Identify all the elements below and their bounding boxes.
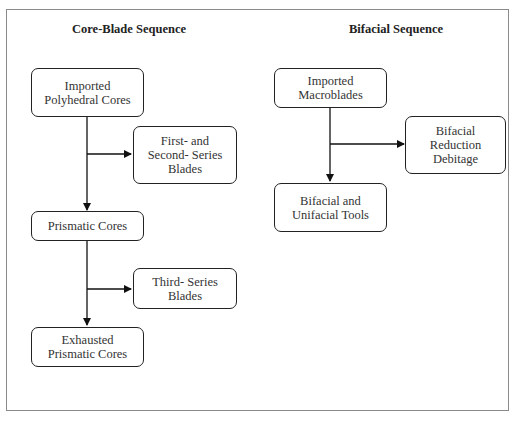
node-imported-polyhedral-cores: Imported Polyhedral Cores bbox=[31, 68, 144, 117]
node-first-second-series-blades: First- and Second- Series Blades bbox=[133, 126, 237, 184]
node-bifacial-reduction-debitage: Bifacial Reduction Debitage bbox=[405, 116, 506, 174]
node-bifacial-unifacial-tools: Bifacial and Unifacial Tools bbox=[274, 183, 387, 232]
node-prismatic-cores: Prismatic Cores bbox=[31, 211, 144, 241]
node-imported-macroblades: Imported Macroblades bbox=[274, 68, 387, 108]
node-third-series-blades: Third- Series Blades bbox=[133, 268, 237, 309]
node-exhausted-prismatic-cores: Exhausted Prismatic Cores bbox=[31, 327, 144, 367]
